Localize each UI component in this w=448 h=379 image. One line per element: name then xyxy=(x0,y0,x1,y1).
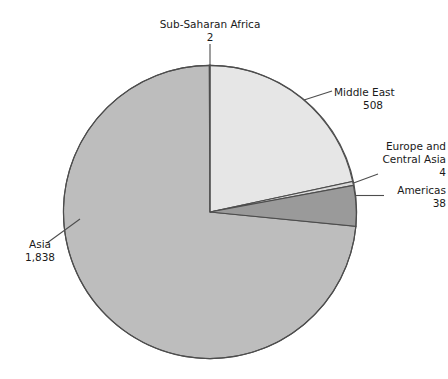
slice-value-middle-east: 508 xyxy=(334,99,412,112)
slice-value-europe-and-central-asia: 4 xyxy=(358,166,446,179)
slice-label-text-asia: Asia xyxy=(29,238,51,250)
slice-label-text-europe-line1: Europe and xyxy=(386,140,446,152)
slice-label-text-middle-east: Middle East xyxy=(334,86,395,98)
leader-line-middle-east xyxy=(304,91,332,100)
slice-label-middle-east: Middle East 508 xyxy=(334,86,434,112)
slice-label-asia: Asia 1,838 xyxy=(8,238,72,264)
slice-value-americas: 38 xyxy=(358,197,446,210)
slice-label-text-americas: Americas xyxy=(397,184,446,196)
pie-chart: Sub-Saharan Africa 2 Middle East 508 Eur… xyxy=(0,0,448,379)
slice-label-text-europe-line2: Central Asia xyxy=(358,153,446,166)
slice-label-americas: Americas 38 xyxy=(358,184,446,210)
slice-label-sub-saharan-africa: Sub-Saharan Africa 2 xyxy=(140,18,280,44)
slice-value-asia: 1,838 xyxy=(8,251,72,264)
slice-value-sub-saharan-africa: 2 xyxy=(140,31,280,44)
slice-label-text-sub-saharan-africa: Sub-Saharan Africa xyxy=(160,18,261,30)
slice-label-europe-and-central-asia: Europe and Central Asia 4 xyxy=(358,140,446,179)
